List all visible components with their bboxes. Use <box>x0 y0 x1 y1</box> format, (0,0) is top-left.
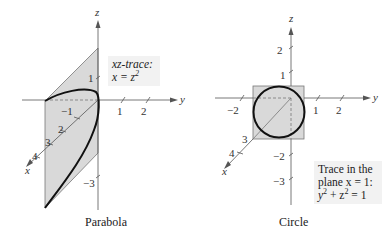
z-axis-label: z <box>288 12 294 24</box>
y-tick-2: 2 <box>336 104 342 116</box>
x-tick-4: 4 <box>229 147 235 159</box>
circle-caption: Circle <box>279 215 308 229</box>
figure-canvas: z y x 1 −3 −1 1 2 2 3 4 Parabola <box>0 0 386 241</box>
y-tick-2: 2 <box>141 105 147 117</box>
plane-trace-equation: y2 + z2 = 1 <box>318 189 378 202</box>
z-tick-neg2: −2 <box>273 150 285 162</box>
x-tick-2: 2 <box>58 123 64 135</box>
xz-trace-annotation: xz-trace: x = z2 <box>108 56 160 86</box>
y-tick-neg1: −1 <box>61 105 73 117</box>
x-axis-label: x <box>221 165 227 177</box>
y-axis-label: y <box>179 93 185 105</box>
y-axis-label: y <box>372 91 378 103</box>
z-tick-1: 1 <box>280 69 286 81</box>
y-tick-1: 1 <box>117 105 123 117</box>
x-tick-3: 3 <box>45 136 51 148</box>
y-tick-1: 1 <box>313 104 319 116</box>
z-tick-1: 1 <box>88 72 94 84</box>
parabola-figure: z y x 1 −3 −1 1 2 2 3 4 Parabola <box>22 6 185 229</box>
plane-trace-line1: Trace in the <box>318 163 378 176</box>
plane-trace-annotation: Trace in the plane x = 1: y2 + z2 = 1 <box>314 161 382 204</box>
z-tick-neg3: −3 <box>273 175 285 187</box>
x-tick-4: 4 <box>32 150 38 162</box>
parabola-caption: Parabola <box>85 215 128 229</box>
y-tick-neg2: −2 <box>227 104 239 116</box>
z-axis-arrow-icon <box>96 20 101 28</box>
x-axis-label: x <box>24 164 30 176</box>
x-tick-3: 3 <box>242 133 248 145</box>
xz-trace-title: xz-trace: <box>112 58 156 71</box>
z-tick-neg3: −3 <box>83 177 95 189</box>
y-axis-arrow-icon <box>363 96 371 101</box>
z-axis-arrow-icon <box>289 27 294 35</box>
z-axis-label: z <box>94 6 100 18</box>
y-axis-arrow-icon <box>170 98 178 103</box>
z-tick-2: 2 <box>277 44 283 56</box>
xz-trace-equation: x = z2 <box>112 71 156 84</box>
